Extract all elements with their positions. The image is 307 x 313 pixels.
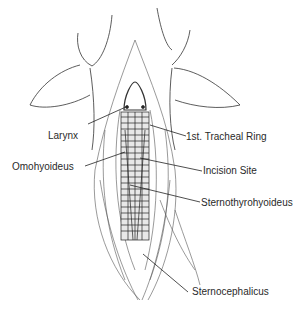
larynx-shape	[124, 82, 146, 110]
label-larynx: Larynx	[48, 130, 78, 142]
label-sternocephalicus: Sternocephalicus	[192, 286, 269, 298]
anatomy-illustration	[0, 0, 307, 313]
label-incision-site: Incision Site	[203, 165, 257, 177]
label-first-tracheal-ring: 1st. Tracheal Ring	[186, 131, 267, 143]
label-sternothyrohyoideus: Sternothyrohyoideus	[201, 197, 293, 209]
trachea	[121, 112, 149, 240]
label-omohyoideus: Omohyoideus	[12, 161, 74, 173]
